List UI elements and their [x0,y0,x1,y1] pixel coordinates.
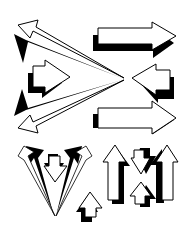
small-up-arrow-icon [76,192,102,222]
hourglass-up-arrow-icon [130,182,156,207]
v-arrow-middle-down-icon [44,154,67,182]
small-left-arrow-icon [132,64,174,103]
block-arrow-right-top-icon [93,22,176,58]
arrow-clipart [0,0,190,234]
tall-up-arrow-left-icon [103,145,130,204]
tall-up-arrow-right-icon [150,145,178,203]
block-arrow-right-bottom-icon [93,101,176,134]
small-right-arrow-icon [28,60,70,98]
hourglass-down-arrow-icon [131,148,156,174]
